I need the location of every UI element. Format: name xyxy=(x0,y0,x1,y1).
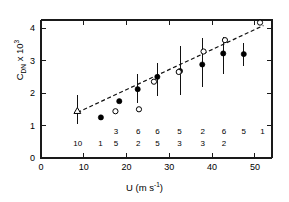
y-axis-label-main: C xyxy=(14,73,25,80)
data-point-open xyxy=(222,38,227,43)
data-point-open xyxy=(136,107,141,112)
data-point-filled xyxy=(135,87,140,92)
count-label-bottom: 10 xyxy=(73,139,82,148)
data-point-filled xyxy=(155,74,160,79)
x-tick-label: 20 xyxy=(122,162,132,172)
axis-ticks xyxy=(41,20,272,158)
count-label-top: 3 xyxy=(114,127,119,136)
data-point-open xyxy=(113,109,118,114)
count-label-top: 5 xyxy=(177,127,182,136)
scatter-plot: 0123401020304050 36652651101525332 xyxy=(0,0,289,202)
y-axis-label-mid: x 10 xyxy=(14,43,25,64)
x-axis-label: U (m s-1) xyxy=(0,181,289,193)
count-label-top: 6 xyxy=(155,127,160,136)
axis-left-bottom xyxy=(41,20,272,158)
count-label-top: 2 xyxy=(200,127,205,136)
x-axis-label-tail: ) xyxy=(160,182,163,193)
data-point-filled xyxy=(200,62,205,67)
axes-frame xyxy=(41,20,272,158)
count-label-top: 6 xyxy=(136,127,141,136)
x-tick-label: 40 xyxy=(207,162,217,172)
data-point-open xyxy=(151,79,156,84)
count-label-bottom: 3 xyxy=(177,139,182,148)
error-bars xyxy=(77,37,243,124)
data-point-filled xyxy=(98,115,103,120)
y-tick-label: 2 xyxy=(30,88,35,98)
data-point-open xyxy=(257,20,262,25)
count-label-bottom: 5 xyxy=(114,139,119,148)
data-point-filled xyxy=(241,51,246,56)
data-point-triangle xyxy=(74,108,81,114)
count-label-bottom: 5 xyxy=(155,139,160,148)
x-tick-label: 30 xyxy=(164,162,174,172)
sample-count-labels: 36652651101525332 xyxy=(73,127,265,148)
figure-container: 0123401020304050 36652651101525332 CDN x… xyxy=(0,0,289,202)
data-point-open xyxy=(176,69,181,74)
count-label-top: 5 xyxy=(242,127,247,136)
y-tick-label: 0 xyxy=(30,153,35,163)
y-tick-label: 3 xyxy=(30,56,35,66)
regression-fit-line xyxy=(77,26,263,113)
data-point-filled xyxy=(221,51,226,56)
x-tick-label: 0 xyxy=(38,162,43,172)
count-label-top: 1 xyxy=(260,127,265,136)
y-tick-label: 4 xyxy=(30,23,35,33)
axis-top-right xyxy=(41,20,272,158)
y-axis-label-superscript: 3 xyxy=(13,40,20,44)
y-tick-label: 1 xyxy=(30,121,35,131)
fit-line xyxy=(77,26,263,113)
count-label-bottom: 1 xyxy=(98,139,103,148)
count-label-bottom: 3 xyxy=(200,139,205,148)
count-label-bottom: 2 xyxy=(136,139,141,148)
x-tick-label: 10 xyxy=(79,162,89,172)
count-label-top: 6 xyxy=(222,127,227,136)
x-axis-label-main: U (m s xyxy=(126,182,154,193)
y-axis-label-subscript: DN xyxy=(20,64,27,73)
data-point-filled xyxy=(117,99,122,104)
y-axis-label: CDN x 103 xyxy=(13,20,29,100)
x-tick-label: 50 xyxy=(250,162,260,172)
count-label-bottom: 2 xyxy=(222,139,227,148)
data-point-open xyxy=(201,49,206,54)
axis-tick-labels: 0123401020304050 xyxy=(30,23,260,172)
